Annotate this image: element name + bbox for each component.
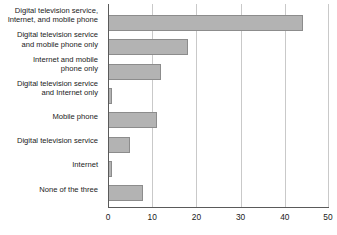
category-label-none-of-the-three: None of the three [0,185,98,194]
category-label-digital-tv-mobile-only: Digital television service and mobile ph… [0,30,98,48]
x-tick-label-0: 0 [93,212,123,222]
gridline-20 [196,4,197,207]
x-tick-label-30: 30 [226,212,256,222]
y-axis-line [108,4,109,208]
x-tick-label-20: 20 [181,212,211,222]
bar-internet-mobile-only [108,64,161,80]
bar-digital-tv-internet-mobile [108,15,303,31]
bar-none-of-the-three [108,185,143,201]
category-label-internet: Internet [0,160,98,169]
bar-digital-tv-mobile-only [108,39,188,55]
category-label-internet-mobile-only: Internet and mobile phone only [0,55,98,73]
gridline-30 [241,4,242,207]
category-label-digital-tv-service: Digital television service [0,136,98,145]
gridline-10 [152,4,153,207]
x-tick-label-10: 10 [137,212,167,222]
category-label-digital-tv-internet-only: Digital television service and Internet … [0,79,98,97]
x-tick-label-50: 50 [313,212,337,222]
x-axis-line [108,207,329,208]
x-tick-label-40: 40 [270,212,300,222]
plot-area [108,4,329,207]
bar-digital-tv-service [108,137,130,153]
gridline-40 [285,4,286,207]
bar-mobile-phone [108,112,157,128]
category-label-digital-tv-internet-mobile: Digital television service, Internet, an… [0,6,98,24]
category-label-mobile-phone: Mobile phone [0,112,98,121]
gridline-50 [328,4,329,207]
